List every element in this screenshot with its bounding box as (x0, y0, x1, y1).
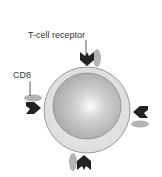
cd8-molecule-bottom (69, 153, 77, 171)
cd8-molecule-right (131, 121, 149, 128)
t-cell-diagram: T-cell receptor CD8 (0, 0, 162, 177)
tcr-receptor-right (133, 106, 148, 118)
t-cell-illustration (0, 0, 162, 177)
tcr-receptor-top (80, 52, 94, 66)
cd8-molecule-top (93, 49, 101, 67)
tcr-label: T-cell receptor (28, 30, 85, 40)
cd8-label: CD8 (13, 70, 31, 80)
nucleus (53, 73, 121, 139)
tcr-receptor-left (26, 102, 41, 114)
cd8-molecule-left (24, 95, 42, 102)
tcr-receptor-bottom (77, 155, 91, 170)
